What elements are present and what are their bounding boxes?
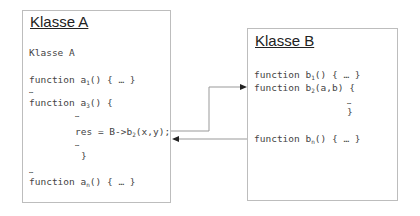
call-arrow: [171, 87, 242, 131]
arrows: [0, 0, 420, 216]
arrowhead-icon: [172, 136, 179, 142]
arrowhead-icon: [240, 84, 247, 90]
